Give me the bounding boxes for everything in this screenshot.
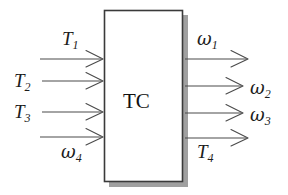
input-label-t1-subscript: 1 (73, 38, 79, 52)
output-label-omega1: ω1 (197, 29, 218, 48)
diagram-canvas: TC T1 T2 T3 ω4 ω1 ω2 ω3 T4 (0, 0, 288, 195)
output-label-t4: T4 (197, 142, 214, 161)
input-arrow-t2 (42, 73, 103, 90)
input-label-omega4-base: ω (61, 141, 76, 162)
input-label-t3-subscript: 3 (25, 111, 31, 125)
output-label-t4-subscript: 4 (208, 151, 214, 165)
output-arrow-t4 (185, 130, 248, 147)
input-label-t2-subscript: 2 (25, 80, 31, 94)
output-label-omega3-subscript: 3 (265, 114, 271, 128)
output-label-t4-base: T (197, 141, 208, 162)
output-arrow-omega2 (185, 78, 243, 95)
output-label-omega2-base: ω (250, 77, 265, 98)
input-label-t3-base: T (14, 101, 25, 122)
output-label-omega2-subscript: 2 (265, 87, 271, 101)
input-label-omega4-subscript: 4 (76, 151, 82, 165)
input-label-omega4: ω4 (61, 142, 82, 161)
block-label-tc: TC (123, 91, 150, 112)
output-label-omega3-base: ω (250, 104, 265, 125)
input-label-t2: T2 (14, 71, 31, 90)
output-label-omega1-subscript: 1 (212, 38, 218, 52)
output-arrow-omega3 (185, 105, 243, 122)
input-arrow-t1 (40, 51, 103, 68)
input-label-t1-base: T (62, 28, 73, 49)
output-label-omega3: ω3 (250, 105, 271, 124)
input-arrow-t3 (42, 104, 103, 121)
output-label-omega2: ω2 (250, 78, 271, 97)
input-label-t1: T1 (62, 29, 79, 48)
input-label-t2-base: T (14, 70, 25, 91)
input-label-t3: T3 (14, 102, 31, 121)
output-label-omega1-base: ω (197, 28, 212, 49)
output-arrow-omega1 (185, 51, 248, 68)
